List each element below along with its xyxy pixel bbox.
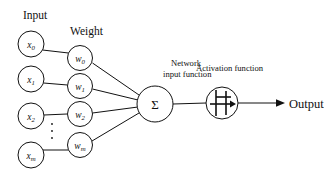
output-arrow-icon xyxy=(238,99,285,107)
weight-node-w2[interactable]: w2 xyxy=(68,102,93,127)
summation-node[interactable]: Σ xyxy=(137,86,173,122)
edge-w1-sum xyxy=(93,89,139,100)
edge-x2-w2 xyxy=(44,114,67,115)
output-caption: Output xyxy=(289,97,324,111)
weight-heading: Weight xyxy=(70,25,104,38)
input-to-weight-edges xyxy=(43,50,69,150)
weight-node-wm[interactable]: wm xyxy=(68,133,93,158)
neural-network-diagram: x0 x1 x2 xm w0 xyxy=(0,0,324,180)
weight-node-w0[interactable]: w0 xyxy=(68,46,93,71)
weight-node-w1[interactable]: w1 xyxy=(68,74,93,99)
input-node-x2[interactable]: x2 xyxy=(18,103,44,129)
diagram-canvas: x0 x1 x2 xm w0 xyxy=(0,0,324,180)
edge-x0-w0 xyxy=(43,50,69,53)
edge-sum-to-activation xyxy=(173,103,206,104)
weight-to-sum-edges xyxy=(92,63,139,141)
vertical-ellipsis-icon xyxy=(51,123,53,139)
input-node-x0[interactable]: x0 xyxy=(18,31,44,57)
edge-w2-sum xyxy=(93,107,139,113)
sigma-symbol: Σ xyxy=(151,97,159,112)
input-node-xm[interactable]: xm xyxy=(18,142,44,168)
edge-x1-w1 xyxy=(44,83,68,85)
activation-function-caption: Activation function xyxy=(196,63,264,73)
activation-function-node[interactable] xyxy=(206,87,238,119)
edge-wm-sum xyxy=(92,113,139,141)
input-node-x1[interactable]: x1 xyxy=(18,66,44,92)
input-heading: Input xyxy=(23,9,48,22)
